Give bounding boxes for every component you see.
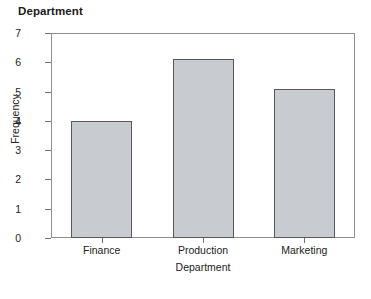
y-axis-tick — [45, 62, 51, 63]
y-axis-tick — [45, 238, 51, 239]
bar — [173, 59, 234, 238]
y-axis: Frequency 01234567 — [0, 0, 51, 299]
bar — [274, 89, 335, 238]
y-axis-tick-label: 5 — [15, 87, 21, 98]
y-axis-tick-label: 6 — [15, 57, 21, 68]
x-axis-tick-label: Finance — [52, 244, 152, 256]
x-axis-tick — [203, 238, 204, 243]
x-axis-tick — [304, 238, 305, 243]
bar — [71, 121, 132, 238]
bar-chart-figure: Department Frequency 01234567 Department… — [0, 0, 371, 299]
y-axis-tick-label: 2 — [15, 174, 21, 185]
y-axis-tick — [45, 209, 51, 210]
y-axis-tick — [45, 121, 51, 122]
y-axis-tick-label: 0 — [15, 233, 21, 244]
y-axis-tick — [45, 179, 51, 180]
y-axis-tick — [45, 92, 51, 93]
x-axis-tick-label: Production — [153, 244, 253, 256]
y-axis-tick — [45, 33, 51, 34]
y-axis-tick-label: 4 — [15, 116, 21, 127]
y-axis-tick — [45, 150, 51, 151]
y-axis-tick-label: 1 — [15, 204, 21, 215]
x-axis-title: Department — [51, 261, 355, 273]
y-axis-tick-label: 3 — [15, 145, 21, 156]
y-axis-tick-label: 7 — [15, 28, 21, 39]
x-axis-tick — [102, 238, 103, 243]
x-axis-tick-label: Marketing — [254, 244, 354, 256]
